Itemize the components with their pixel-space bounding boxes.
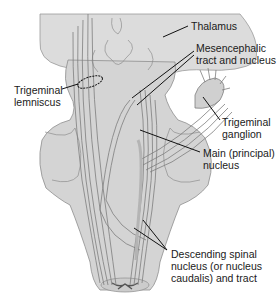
label-mesencephalic-tract: Mesencephalic tract and nucleus [196, 42, 276, 66]
label-line: tract and nucleus [196, 54, 276, 66]
label-descending-spinal-nucleus: Descending spinal nucleus (or nucleus ca… [171, 248, 262, 284]
trigeminal-ganglion-shape [195, 68, 230, 108]
label-line: nucleus [203, 159, 275, 171]
label-line: Trigeminal [14, 84, 63, 96]
label-line: Main (principal) [203, 147, 275, 159]
label-line: nucleus (or nucleus [171, 260, 262, 272]
label-line: caudalis) and tract [171, 272, 262, 284]
medulla-cross-section [101, 278, 149, 292]
label-line: Descending spinal [171, 248, 262, 260]
label-trigeminal-ganglion: Trigeminal ganglion [222, 116, 271, 140]
label-main-nucleus: Main (principal) nucleus [203, 147, 275, 171]
label-line: Trigeminal [222, 116, 271, 128]
label-line: lemniscus [14, 96, 63, 108]
label-thalamus: Thalamus [191, 20, 237, 32]
label-trigeminal-lemniscus: Trigeminal lemniscus [14, 84, 63, 108]
label-line: ganglion [222, 128, 271, 140]
label-line: Mesencephalic [196, 42, 276, 54]
label-line: Thalamus [191, 20, 237, 32]
